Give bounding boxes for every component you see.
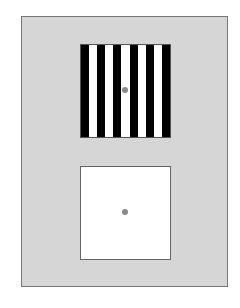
grating-stripe xyxy=(113,45,121,137)
grating-stripe xyxy=(130,45,138,137)
grating-stripe xyxy=(105,45,113,137)
grating-stripe xyxy=(154,45,162,137)
fixation-dot-top xyxy=(122,87,128,93)
grating-stripe xyxy=(81,45,89,137)
grating-stripe xyxy=(146,45,154,137)
grating-stripe xyxy=(97,45,105,137)
grating-stripe xyxy=(138,45,146,137)
fixation-dot-bottom xyxy=(122,209,128,215)
grating-stripe xyxy=(162,45,170,137)
grating-stripe xyxy=(89,45,97,137)
